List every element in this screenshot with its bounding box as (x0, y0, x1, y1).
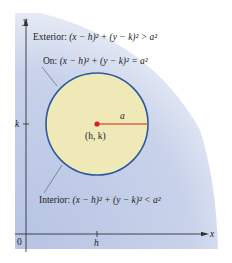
interior-label: Interior: (x − h)² + (y − k)² < a² (39, 195, 161, 206)
center-label: (h, k) (85, 131, 106, 142)
on-label: On: (x − h)² + (y − k)² = a² (43, 56, 148, 67)
exterior-equation: (x − h)² + (y − k)² > a² (69, 32, 157, 43)
exterior-prefix: Exterior: (33, 32, 69, 42)
x-axis-label: x (209, 229, 215, 239)
circle-regions-diagram: y x 0 h k a (h, k) Exterior: (x − h)² + … (0, 0, 232, 263)
radius-label: a (120, 111, 125, 121)
on-prefix: On: (43, 56, 60, 66)
center-point (94, 121, 99, 126)
origin-label: 0 (17, 237, 22, 247)
h-tick-label: h (94, 238, 99, 248)
exterior-label: Exterior: (x − h)² + (y − k)² > a² (33, 32, 157, 43)
interior-prefix: Interior: (39, 195, 73, 205)
interior-equation: (x − h)² + (y − k)² < a² (73, 195, 161, 206)
on-equation: (x − h)² + (y − k)² = a² (60, 56, 148, 67)
y-axis-label: y (22, 16, 28, 26)
